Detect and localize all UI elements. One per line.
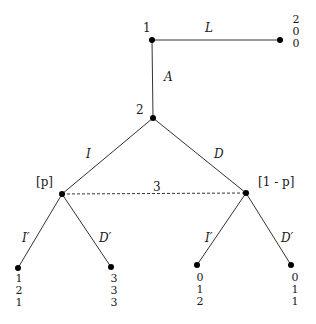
action-A-label: A [164,71,173,83]
player-2-label: 2 [136,104,144,116]
payoff-value: 1 [290,296,300,308]
payoff-A-D-I: 0 1 2 [195,272,205,308]
terminal-2 [108,264,114,270]
edge-A [152,40,153,118]
edge-right-D-prime [246,193,291,265]
edge-I [62,118,153,194]
edge-right-I-prime [197,193,246,265]
payoff-value: 3 [109,297,119,309]
terminal-1 [15,265,21,271]
payoff-A-I-D: 3 3 3 [109,273,119,309]
payoff-value: 2 [195,296,205,308]
node-player-3-right [243,190,249,196]
node-player-2 [150,115,156,121]
edge-D [153,118,246,193]
terminal-4 [288,262,294,268]
node-player-3-left [59,191,65,197]
player-1-label: 1 [143,22,151,34]
belief-1-minus-p-text: [1 - p] [258,175,294,189]
payoff-A-I-I: 1 2 1 [14,273,24,309]
action-right-D-prime-label: D′ [281,232,293,244]
payoff-value: 1 [14,297,24,309]
terminal-3 [194,262,200,268]
action-L-label: L [205,22,213,34]
action-I-label: I [86,148,91,160]
belief-1-minus-p-label: [1 - p] [258,176,294,188]
payoff-L: 2 0 0 [291,14,301,50]
action-left-I-prime-label: I′ [22,232,29,244]
game-tree-edges [0,0,316,324]
belief-p-text: [p] [36,175,53,189]
payoff-A-D-D: 0 1 1 [290,272,300,308]
belief-p-label: [p] [36,176,53,188]
player-3-label: 3 [153,181,161,193]
action-D-label: D [214,148,224,160]
action-right-I-prime-label: I′ [205,232,212,244]
node-player-1 [149,37,155,43]
payoff-value: 0 [291,38,301,50]
action-left-D-prime-label: D′ [99,232,111,244]
terminal-L [277,37,283,43]
